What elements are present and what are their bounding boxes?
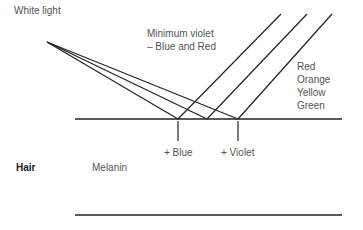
color-orange-label: Orange bbox=[297, 73, 330, 86]
plus-violet-label: + Violet bbox=[221, 146, 254, 159]
incident-ray-3 bbox=[47, 42, 238, 119]
color-green-label: Green bbox=[297, 99, 325, 112]
melanin-label: Melanin bbox=[92, 161, 127, 174]
color-red-label: Red bbox=[297, 60, 315, 73]
plus-blue-label: + Blue bbox=[164, 146, 193, 159]
hair-label: Hair bbox=[16, 161, 35, 174]
incident-ray-2 bbox=[47, 42, 207, 119]
white-light-label: White light bbox=[14, 4, 61, 17]
reflected-ray-2 bbox=[207, 14, 307, 119]
color-yellow-label: Yellow bbox=[297, 86, 326, 99]
minimum-violet-label: Minimum violet bbox=[147, 27, 214, 40]
incident-ray-1 bbox=[47, 42, 178, 119]
blue-and-red-label: – Blue and Red bbox=[147, 40, 216, 53]
